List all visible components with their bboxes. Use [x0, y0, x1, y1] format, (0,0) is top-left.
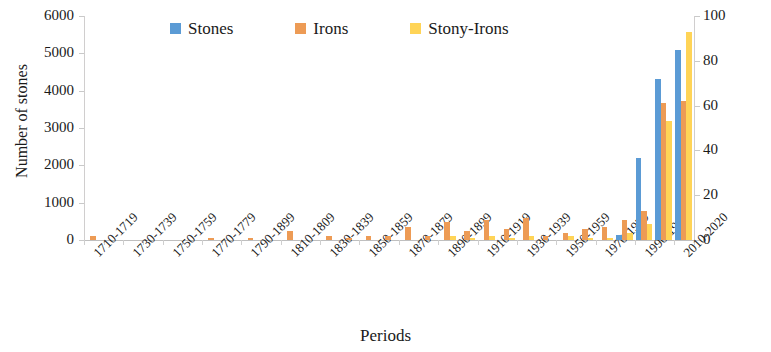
- x-axis-tick: [596, 240, 597, 245]
- bar-stony-irons[interactable]: [647, 224, 653, 240]
- bar-stony-irons[interactable]: [588, 238, 594, 240]
- bar-irons[interactable]: [346, 238, 352, 240]
- bar-group: [497, 16, 517, 240]
- bar-group: [241, 16, 261, 240]
- x-axis-tick: [399, 240, 400, 245]
- bar-group: [596, 16, 616, 240]
- bar-stony-irons[interactable]: [666, 121, 672, 240]
- bar-group: [537, 16, 557, 240]
- x-axis-tick: [320, 240, 321, 245]
- y-axis-secondary-tick: [695, 61, 700, 62]
- bar-irons[interactable]: [208, 238, 214, 240]
- bar-group: [123, 16, 143, 240]
- y-axis-primary-tick-label: 1000: [4, 195, 74, 210]
- bar-group: [399, 16, 419, 240]
- y-axis-primary-tick-label: 5000: [4, 45, 74, 60]
- x-axis-tick: [517, 240, 518, 245]
- bar-group: [556, 16, 576, 240]
- y-axis-primary-tick-label: 0: [4, 232, 74, 247]
- bar-stony-irons[interactable]: [529, 236, 535, 240]
- bar-stony-irons[interactable]: [686, 32, 692, 240]
- y-axis-primary-tick-label: 4000: [4, 83, 74, 98]
- bar-group: [635, 16, 655, 240]
- x-axis-title: Periods: [0, 326, 771, 346]
- bar-stony-irons[interactable]: [470, 238, 476, 240]
- x-axis-tick: [478, 240, 479, 245]
- x-axis-tick: [163, 240, 164, 245]
- bar-stony-irons[interactable]: [627, 233, 633, 240]
- bar-irons[interactable]: [366, 236, 372, 240]
- y-axis-secondary-tick-label: 80: [703, 53, 743, 68]
- y-axis-secondary-tick-label: 40: [703, 142, 743, 157]
- bar-group: [674, 16, 694, 240]
- bar-stony-irons[interactable]: [568, 236, 574, 240]
- y-axis-secondary-tick: [695, 106, 700, 107]
- bar-group: [478, 16, 498, 240]
- bar-group: [458, 16, 478, 240]
- bar-irons[interactable]: [543, 236, 549, 240]
- x-axis-tick: [202, 240, 203, 245]
- bar-group: [419, 16, 439, 240]
- y-axis-secondary-line: [694, 16, 695, 241]
- x-axis-tick: [123, 240, 124, 245]
- y-axis-secondary-tick: [695, 16, 700, 17]
- x-axis-tick: [359, 240, 360, 245]
- bar-irons[interactable]: [248, 238, 254, 240]
- bar-stony-irons[interactable]: [607, 238, 613, 240]
- bar-group: [517, 16, 537, 240]
- y-axis-secondary-tick-label: 60: [703, 98, 743, 113]
- x-axis-tick: [556, 240, 557, 245]
- y-axis-secondary-tick: [695, 195, 700, 196]
- bar-group: [143, 16, 163, 240]
- bar-chart: StonesIronsStony-Irons Number of stones …: [0, 0, 771, 352]
- bar-group: [300, 16, 320, 240]
- bar-stony-irons[interactable]: [509, 238, 515, 240]
- bar-group: [222, 16, 242, 240]
- bar-group: [615, 16, 635, 240]
- bar-group: [84, 16, 104, 240]
- bar-group: [261, 16, 281, 240]
- bar-group: [104, 16, 124, 240]
- x-axis-tick: [241, 240, 242, 245]
- bar-group: [163, 16, 183, 240]
- bar-irons[interactable]: [425, 236, 431, 240]
- bar-group: [655, 16, 675, 240]
- bars-layer: [84, 16, 694, 240]
- bar-group: [576, 16, 596, 240]
- x-axis-tick: [281, 240, 282, 245]
- x-axis-tick: [438, 240, 439, 245]
- y-axis-primary-tick-label: 6000: [4, 8, 74, 23]
- bar-stony-irons[interactable]: [450, 236, 456, 240]
- y-axis-primary-tick-label: 3000: [4, 120, 74, 135]
- x-axis-tick: [635, 240, 636, 245]
- bar-group: [340, 16, 360, 240]
- bar-group: [202, 16, 222, 240]
- bar-irons[interactable]: [90, 236, 96, 240]
- bar-group: [182, 16, 202, 240]
- bar-irons[interactable]: [326, 236, 332, 240]
- y-axis-secondary-tick-label: 20: [703, 187, 743, 202]
- x-axis-tick: [674, 240, 675, 245]
- y-axis-secondary-tick: [695, 150, 700, 151]
- bar-stony-irons[interactable]: [489, 236, 495, 240]
- x-axis-tick: [84, 240, 85, 245]
- bar-irons[interactable]: [385, 236, 391, 240]
- bar-irons[interactable]: [405, 227, 411, 240]
- bar-irons[interactable]: [287, 231, 293, 240]
- bar-group: [379, 16, 399, 240]
- bar-group: [281, 16, 301, 240]
- bar-group: [320, 16, 340, 240]
- y-axis-primary-tick-label: 2000: [4, 157, 74, 172]
- bar-group: [359, 16, 379, 240]
- y-axis-secondary-tick-label: 100: [703, 8, 743, 23]
- bar-group: [438, 16, 458, 240]
